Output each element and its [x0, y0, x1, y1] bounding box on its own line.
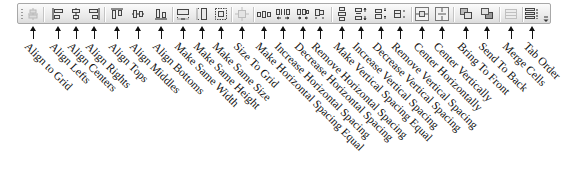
arrow-line [303, 29, 304, 39]
arrow-line [487, 29, 488, 39]
arrow-line [76, 29, 77, 39]
align-middles-icon [130, 6, 146, 22]
arrow-line [161, 29, 162, 39]
arrow-line [242, 29, 243, 39]
increase-horizontal-spacing-icon [275, 6, 291, 22]
arrow-line [94, 29, 95, 39]
align-rights-icon [86, 6, 102, 22]
align-lefts-button[interactable] [50, 6, 66, 22]
center-horizontally-button[interactable] [414, 6, 430, 22]
tab-order-button[interactable] [524, 6, 540, 22]
arrow-line [466, 29, 467, 39]
arrow-line [58, 29, 59, 39]
arrow-line [342, 29, 343, 39]
arrow-line [400, 29, 401, 39]
arrow-line [202, 29, 203, 39]
decrease-horizontal-spacing-button[interactable] [295, 6, 311, 22]
align-middles-button[interactable] [130, 6, 146, 22]
arrow-line [283, 29, 284, 39]
decrease-vertical-spacing-button[interactable] [373, 6, 389, 22]
layout-toolbar [17, 3, 551, 24]
bring-to-front-icon [458, 6, 474, 22]
align-to-grid-button[interactable] [25, 6, 41, 22]
size-to-grid-icon [234, 6, 250, 22]
align-bottoms-button[interactable] [153, 6, 169, 22]
align-centers-button[interactable] [68, 6, 84, 22]
tab-order-icon [524, 6, 540, 22]
center-vertically-icon [434, 6, 450, 22]
toolbar-overflow-chevron-icon [542, 11, 550, 23]
arrow-line [422, 29, 423, 39]
arrow-line [138, 29, 139, 39]
toolbar-grip-handle[interactable] [21, 8, 23, 21]
make-same-height-icon [194, 6, 210, 22]
toolbar-separator [43, 7, 45, 22]
make-horizontal-spacing-equal-icon [256, 6, 272, 22]
remove-vertical-spacing-button[interactable] [392, 6, 408, 22]
increase-vertical-spacing-icon [353, 6, 369, 22]
remove-vertical-spacing-icon [392, 6, 408, 22]
arrow-line [33, 29, 34, 39]
make-same-width-icon [175, 6, 191, 22]
make-same-size-button[interactable] [213, 6, 229, 22]
decrease-vertical-spacing-icon [373, 6, 389, 22]
bring-to-front-button[interactable] [458, 6, 474, 22]
center-horizontally-icon [414, 6, 430, 22]
toolbar-separator [453, 7, 455, 22]
align-tops-icon [109, 6, 125, 22]
size-to-grid-button[interactable] [234, 6, 250, 22]
decrease-horizontal-spacing-icon [295, 6, 311, 22]
align-tops-button[interactable] [109, 6, 125, 22]
remove-horizontal-spacing-icon [312, 6, 328, 22]
align-rights-button[interactable] [86, 6, 102, 22]
center-vertically-button[interactable] [434, 6, 450, 22]
merge-cells-icon [503, 6, 519, 22]
make-same-width-button[interactable] [175, 6, 191, 22]
arrow-line [264, 29, 265, 39]
toolbar-overflow-button[interactable] [542, 9, 550, 21]
make-vertical-spacing-equal-icon [334, 6, 350, 22]
arrow-line [511, 29, 512, 39]
make-same-height-button[interactable] [194, 6, 210, 22]
align-bottoms-icon [153, 6, 169, 22]
send-to-back-button[interactable] [479, 6, 495, 22]
toolbar-separator [231, 7, 233, 22]
toolbar-separator [172, 7, 174, 22]
increase-vertical-spacing-button[interactable] [353, 6, 369, 22]
toolbar-separator [499, 7, 501, 22]
increase-horizontal-spacing-button[interactable] [275, 6, 291, 22]
toolbar-separator [253, 7, 255, 22]
make-same-size-icon [213, 6, 229, 22]
send-to-back-icon [479, 6, 495, 22]
make-horizontal-spacing-equal-button[interactable] [256, 6, 272, 22]
align-to-grid-icon [25, 6, 41, 22]
arrow-line [183, 29, 184, 39]
toolbar-separator [331, 7, 333, 22]
arrow-line [320, 29, 321, 39]
make-vertical-spacing-equal-button[interactable] [334, 6, 350, 22]
arrow-line [117, 29, 118, 39]
arrow-line [442, 29, 443, 39]
merge-cells-button[interactable] [503, 6, 519, 22]
toolbar-separator [411, 7, 413, 22]
arrow-line [532, 29, 533, 39]
remove-horizontal-spacing-button[interactable] [312, 6, 328, 22]
arrow-line [221, 29, 222, 39]
arrow-line [361, 29, 362, 39]
align-centers-icon [68, 6, 84, 22]
arrow-line [381, 29, 382, 39]
toolbar-separator [104, 7, 106, 22]
align-lefts-icon [50, 6, 66, 22]
